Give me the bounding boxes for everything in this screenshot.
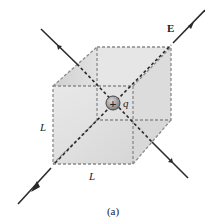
field-label-E: E [167, 22, 174, 34]
charge-sign: + [110, 97, 117, 111]
charge-label: q [123, 97, 129, 109]
edge-label-vertical: L [39, 121, 46, 133]
point-charge: + [106, 96, 120, 111]
gauss-cube-diagram: + q E L L (a) [0, 0, 205, 223]
arrow-icon [188, 22, 194, 29]
edge-label-horizontal: L [88, 170, 95, 182]
figure-caption: (a) [107, 205, 120, 218]
